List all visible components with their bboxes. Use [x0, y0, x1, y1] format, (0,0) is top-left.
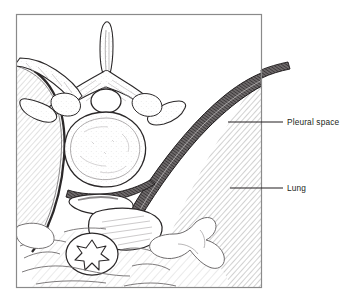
spinous-process: [100, 22, 113, 74]
illustration-figure: Pleural space Lung: [0, 0, 353, 299]
vertebral-body: [65, 112, 146, 187]
thoracic-cross-section-illustration: Pleural space Lung: [0, 0, 353, 299]
label-pleural-space: Pleural space: [287, 117, 339, 127]
spinal-canal: [91, 89, 121, 113]
label-lung: Lung: [287, 183, 306, 193]
